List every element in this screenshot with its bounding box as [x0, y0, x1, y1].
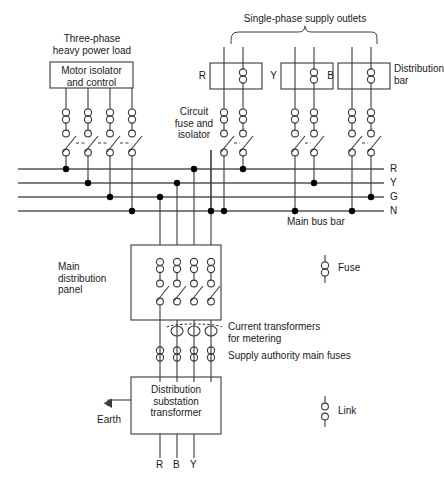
distribution-bar-phase-Y: Y — [255, 70, 277, 82]
substation-transformer-label: Distributionsubstationtransformer — [131, 384, 221, 419]
busbar-label-R: R — [390, 163, 397, 175]
motor-isolator-label: Motor isolatorand control — [50, 65, 133, 88]
circuit-fuse-isolator-label: Circuitfuse andisolator — [170, 106, 218, 141]
diagram-page: Three-phaseheavy power load Motor isolat… — [0, 0, 444, 484]
transformer-output-B: B — [173, 459, 180, 471]
single-phase-outlets-brace — [231, 26, 377, 44]
legend-link-label: Link — [338, 405, 356, 417]
motor-isolator-switches — [63, 130, 142, 156]
transformer-output-R: R — [156, 459, 163, 471]
main-distribution-panel-label: Maindistributionpanel — [58, 261, 126, 296]
distribution-bar-box-B — [338, 63, 390, 89]
single-phase-outlets-label: Single-phase supply outlets — [213, 13, 397, 25]
busbar-label-Y: Y — [390, 177, 397, 189]
main-bus-bars — [18, 169, 384, 211]
motor-fuses — [62, 109, 135, 123]
distribution-bar-label: Distributionbar — [394, 63, 444, 86]
transformer-output-Y: Y — [190, 459, 197, 471]
main-bus-bar-label: Main bus bar — [287, 216, 345, 228]
earth-label: Earth — [83, 414, 135, 426]
busbar-label-G: G — [390, 191, 398, 203]
three-phase-load-label: Three-phaseheavy power load — [30, 33, 154, 56]
supply-authority-main-fuses — [156, 347, 214, 361]
legend-fuse-symbol — [321, 255, 328, 283]
supply-authority-fuses-label: Supply authority main fuses — [228, 350, 388, 362]
distribution-bar-phase-B: B — [312, 70, 334, 82]
single-phase-outlet-B — [338, 47, 390, 211]
legend-link-symbol — [322, 396, 329, 427]
panel-fuses-and-isolators — [156, 258, 220, 305]
distribution-bar-phase-R: R — [184, 70, 206, 82]
busbar-label-N: N — [390, 205, 397, 217]
legend-fuse-label: Fuse — [338, 262, 360, 274]
current-transformers-label: Current transformersfor metering — [228, 321, 348, 344]
